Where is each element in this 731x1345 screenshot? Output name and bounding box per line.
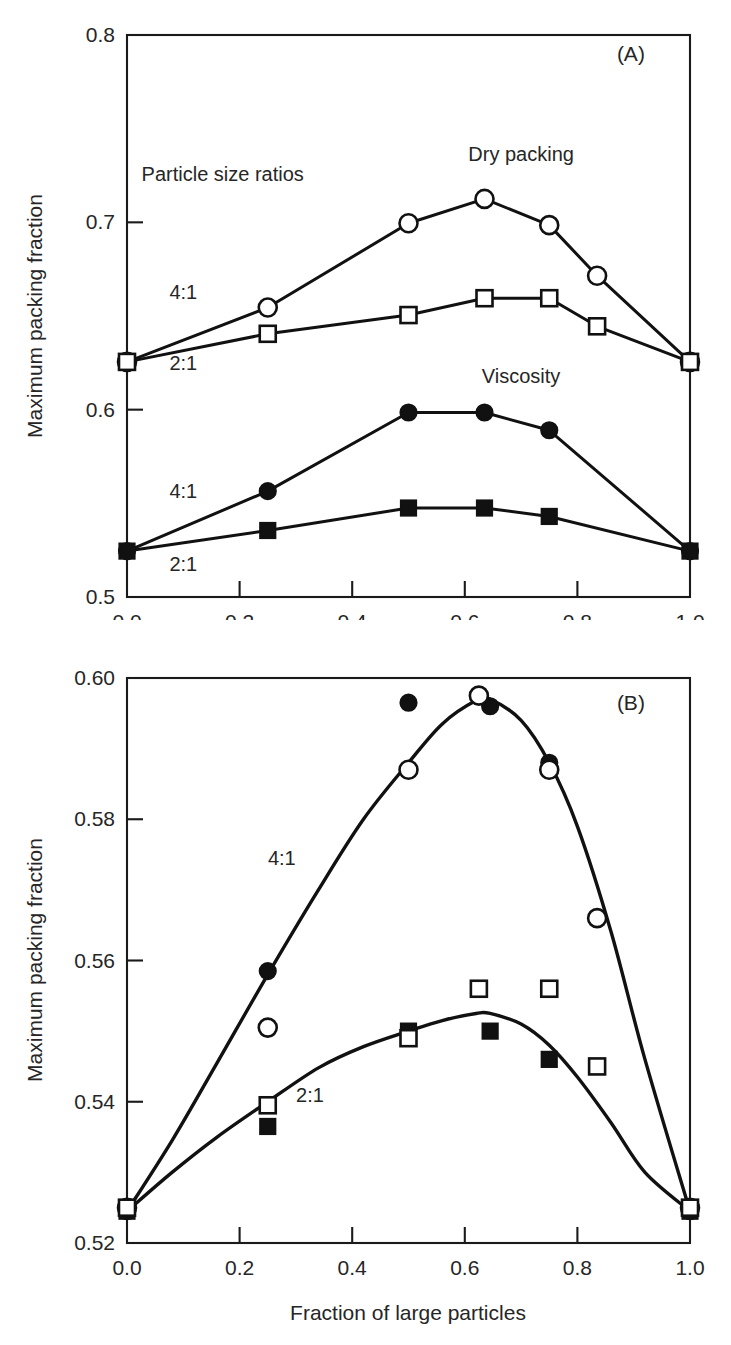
- y-tick-label: 0.56: [74, 949, 115, 972]
- panel-b-x-tick-labels: 0.00.20.40.60.81.0: [112, 1256, 704, 1279]
- panel-a-x-ticks: [240, 581, 578, 597]
- figure-root: 0.50.60.70.8 0.00.20.40.60.81.0 Particle…: [0, 0, 731, 1345]
- data-point-open-circle: [400, 214, 418, 232]
- panel-a-y-ticks: [127, 222, 143, 409]
- data-point-open-circle: [588, 909, 606, 927]
- chart-annotation: (B): [617, 691, 645, 714]
- data-point-open-circle: [588, 267, 606, 285]
- chart-annotation: 4:1: [268, 847, 296, 869]
- y-tick-label: 0.8: [86, 23, 115, 46]
- x-tick-label: 0.2: [225, 1256, 254, 1279]
- data-point-filled-circle: [541, 422, 557, 438]
- data-point-filled-circle: [260, 483, 276, 499]
- data-point-open-square: [401, 1030, 417, 1046]
- data-point-open-square: [471, 981, 487, 997]
- data-point-open-circle: [540, 761, 558, 779]
- data-point-open-square: [260, 1097, 276, 1113]
- data-point-open-square: [682, 1200, 698, 1216]
- data-point-filled-square: [683, 544, 698, 559]
- x-tick-label: 0.8: [563, 1256, 592, 1279]
- data-point-open-circle: [259, 1019, 277, 1037]
- data-point-open-square: [682, 354, 698, 370]
- y-tick-label: 0.60: [74, 666, 115, 689]
- data-point-filled-square: [483, 1024, 498, 1039]
- data-point-open-square: [119, 354, 135, 370]
- x-tick-label: 1.0: [675, 1256, 704, 1279]
- chart-annotation: 2:1: [169, 553, 197, 575]
- data-point-open-square: [401, 307, 417, 323]
- panel-b-y-tick-labels: 0.520.540.560.580.60: [74, 666, 115, 1254]
- x-tick-label: 0.8: [563, 610, 592, 620]
- y-tick-label: 0.6: [86, 398, 115, 421]
- data-point-open-square: [119, 1200, 135, 1216]
- x-tick-label: 1.0: [675, 610, 704, 620]
- chart-annotation: Particle size ratios: [142, 163, 304, 185]
- data-point-open-circle: [470, 687, 488, 705]
- panel-a-x-tick-labels: 0.00.20.40.60.81.0: [112, 610, 704, 620]
- data-point-filled-circle: [401, 695, 417, 711]
- chart-annotation: (A): [617, 42, 645, 65]
- data-point-filled-square: [260, 1119, 275, 1134]
- data-point-open-square: [541, 981, 557, 997]
- chart-annotation: Viscosity: [482, 365, 561, 387]
- data-point-filled-square: [260, 523, 275, 538]
- chart-annotation: 4:1: [169, 480, 197, 502]
- data-point-filled-square: [542, 509, 557, 524]
- x-tick-label: 0.4: [338, 610, 368, 620]
- data-point-open-square: [589, 318, 605, 334]
- data-point-open-circle: [540, 216, 558, 234]
- data-point-filled-square: [120, 544, 135, 559]
- data-point-open-square: [541, 290, 557, 306]
- data-point-filled-circle: [401, 404, 417, 420]
- panel-a: 0.50.60.70.8 0.00.20.40.60.81.0 Particle…: [0, 0, 731, 620]
- chart-annotation: 4:1: [169, 281, 197, 303]
- panel-a-y-tick-labels: 0.50.60.70.8: [86, 23, 115, 608]
- panel-a-series-group: [118, 190, 699, 559]
- panel-b-x-axis-label: Fraction of large particles: [290, 1301, 526, 1324]
- x-tick-label: 0.0: [112, 1256, 141, 1279]
- panel-a-y-axis-label: Maximum packing fraction: [23, 194, 46, 438]
- x-tick-label: 0.4: [338, 1256, 368, 1279]
- data-point-filled-square: [542, 1052, 557, 1067]
- y-tick-label: 0.7: [86, 210, 115, 233]
- panel-b-y-ticks: [127, 819, 143, 1102]
- data-point-filled-square: [401, 501, 416, 516]
- x-tick-label: 0.6: [450, 610, 479, 620]
- x-tick-label: 0.6: [450, 1256, 479, 1279]
- y-tick-label: 0.54: [74, 1090, 115, 1113]
- panel-b-x-ticks: [240, 1227, 578, 1243]
- chart-annotation: 2:1: [169, 352, 197, 374]
- data-point-open-square: [260, 326, 276, 342]
- data-point-open-square: [477, 290, 493, 306]
- chart-annotation: Dry packing: [468, 143, 574, 165]
- panel-b-annotations: 4:12:1(B): [268, 691, 645, 1106]
- x-tick-label: 0.2: [225, 610, 254, 620]
- y-tick-label: 0.5: [86, 585, 115, 608]
- panel-b: 0.520.540.560.580.60 0.00.20.40.60.81.0 …: [0, 620, 731, 1345]
- y-tick-label: 0.52: [74, 1231, 115, 1254]
- y-tick-label: 0.58: [74, 807, 115, 830]
- data-point-open-square: [589, 1058, 605, 1074]
- data-point-filled-square: [477, 501, 492, 516]
- panel-b-series-group: [118, 687, 699, 1220]
- panel-b-y-axis-label: Maximum packing fraction: [23, 838, 46, 1082]
- data-point-filled-circle: [477, 404, 493, 420]
- data-point-open-circle: [400, 761, 418, 779]
- data-point-open-circle: [476, 190, 494, 208]
- data-point-open-circle: [259, 299, 277, 317]
- chart-annotation: 2:1: [296, 1084, 324, 1106]
- x-tick-label: 0.0: [112, 610, 141, 620]
- data-point-filled-circle: [260, 963, 276, 979]
